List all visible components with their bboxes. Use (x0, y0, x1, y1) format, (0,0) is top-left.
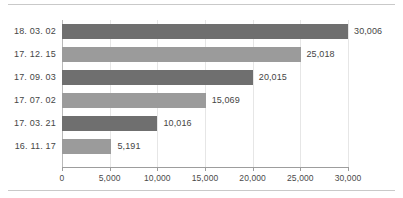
x-tick-label: 0 (60, 173, 65, 183)
x-tick-label: 5,000 (99, 173, 121, 183)
category-label: 16. 11. 17 (15, 139, 56, 154)
bar (62, 93, 206, 108)
bar (62, 116, 157, 131)
bar-row: 17. 07. 0215,069 (62, 89, 348, 112)
category-label: 17. 12. 15 (14, 47, 56, 62)
bar-value-label: 20,015 (259, 70, 287, 85)
x-tick (205, 168, 206, 171)
chart-figure: 18. 03. 0230,00617. 12. 1525,01817. 09. … (0, 0, 403, 198)
bar-row: 17. 09. 0320,015 (62, 66, 348, 89)
x-tick (110, 168, 111, 171)
x-tick (62, 168, 63, 171)
x-tick (300, 168, 301, 171)
plot-area: 18. 03. 0230,00617. 12. 1525,01817. 09. … (62, 20, 348, 167)
bottom-divider (8, 190, 395, 191)
category-label: 17. 07. 02 (14, 93, 56, 108)
bar-value-label: 30,006 (354, 24, 382, 39)
x-tick-label: 30,000 (335, 173, 362, 183)
bar-row: 17. 03. 2110,016 (62, 112, 348, 135)
x-tick-label: 25,000 (287, 173, 314, 183)
x-tick (348, 168, 349, 171)
x-tick (157, 168, 158, 171)
bar (62, 70, 253, 85)
bar-row: 18. 03. 0230,006 (62, 20, 348, 43)
category-label: 18. 03. 02 (14, 24, 56, 39)
gridline (348, 20, 349, 167)
bar-value-label: 5,191 (117, 139, 140, 154)
bar-value-label: 10,016 (163, 116, 191, 131)
bar-row: 17. 12. 1525,018 (62, 43, 348, 66)
category-label: 17. 03. 21 (14, 116, 56, 131)
bar-row: 16. 11. 175,191 (62, 135, 348, 158)
x-tick (253, 168, 254, 171)
bar (62, 47, 301, 62)
bar-value-label: 15,069 (212, 93, 240, 108)
category-label: 17. 09. 03 (14, 70, 56, 85)
bar-value-label: 25,018 (307, 47, 335, 62)
x-tick-label: 15,000 (192, 173, 219, 183)
bar (62, 24, 348, 39)
x-tick-label: 20,000 (239, 173, 266, 183)
bar (62, 139, 111, 154)
top-divider (8, 4, 395, 5)
x-tick-label: 10,000 (144, 173, 171, 183)
